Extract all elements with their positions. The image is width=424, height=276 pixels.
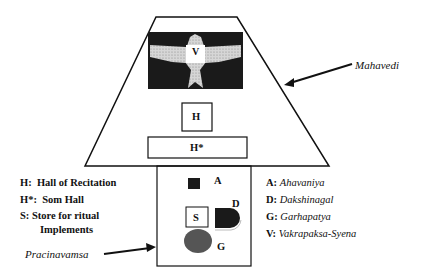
- mahavedi-label: Mahavedi: [355, 60, 399, 71]
- legend-item: D: Dakshinagal: [266, 195, 333, 206]
- marker-h: H: [192, 112, 200, 123]
- pracinavamsa-arrow: [104, 248, 150, 254]
- legend-item: A: Ahavaniya: [266, 178, 325, 189]
- legend-item: H: Hall of Recitation: [20, 178, 116, 189]
- ahavaniya-fire: [188, 178, 200, 189]
- legend-item: Implements: [40, 225, 93, 236]
- marker-v: V: [192, 47, 199, 57]
- garhapatya-fire: [184, 229, 212, 253]
- marker-d: D: [232, 199, 240, 210]
- legend-item: G: Garhapatya: [266, 212, 331, 223]
- marker-g: G: [217, 242, 225, 253]
- legend-item: H*: Som Hall: [20, 195, 84, 206]
- marker-h-star: H*: [190, 143, 203, 154]
- dakshinagal-fire: [215, 208, 240, 228]
- marker-a: A: [214, 176, 222, 187]
- legend-item: V: Vakrapaksa-Syena: [266, 229, 356, 240]
- legend-item: S: Store for ritual: [20, 211, 99, 222]
- marker-s: S: [193, 213, 199, 224]
- pracinavamsa-label: Pracinavamsa: [25, 249, 89, 260]
- mahavedi-arrow: [290, 64, 352, 83]
